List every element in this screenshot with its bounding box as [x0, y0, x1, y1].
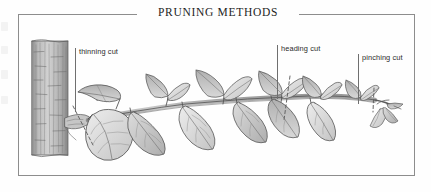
page-edge-artifact	[1, 70, 8, 79]
page-edge-artifact	[1, 96, 8, 104]
leader-line	[358, 54, 359, 104]
branch-pruning-diagram	[18, 14, 415, 176]
leader-line	[75, 48, 76, 112]
callout-label: thinning cut	[79, 47, 118, 56]
leader-line	[277, 45, 278, 99]
callout-label: heading cut	[281, 44, 320, 53]
callout-label: pinching cut	[362, 53, 403, 62]
page-edge-artifact	[1, 46, 8, 54]
page-canvas: PRUNING METHODS	[0, 0, 431, 192]
page-edge-artifact	[1, 22, 8, 31]
illustration-plate: PRUNING METHODS	[18, 14, 415, 176]
